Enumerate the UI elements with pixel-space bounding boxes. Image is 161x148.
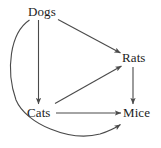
node-dogs: Dogs [28,5,56,18]
node-mice: Mice [123,106,150,119]
causal-diagram: Dogs Rats Cats Mice [0,0,161,148]
graph-edges-layer [0,0,161,148]
edge-cats-to-rats [55,66,122,104]
node-cats: Cats [27,106,51,119]
node-rats: Rats [122,51,146,64]
edge-dogs-to-rats [58,20,121,54]
